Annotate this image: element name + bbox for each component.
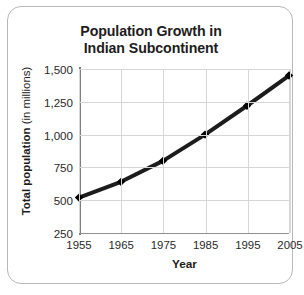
population-line: [79, 76, 289, 198]
gridline-horizontal: [79, 167, 289, 168]
y-axis-tick-label: 500: [33, 194, 73, 207]
gridline-vertical: [79, 69, 80, 233]
gridline-horizontal: [79, 233, 289, 234]
y-axis-tick-label: 1,250: [33, 95, 73, 108]
x-axis-title: Year: [79, 257, 290, 271]
x-axis-tick-label: 2005: [268, 239, 304, 251]
figure-card: Population Growth in Indian Subcontinent…: [7, 6, 293, 284]
gridline-horizontal: [79, 200, 289, 201]
y-axis-tick-label: 1,000: [33, 128, 73, 141]
gridline-horizontal: [79, 102, 289, 103]
gridline-vertical: [248, 69, 249, 233]
gridline-vertical: [121, 69, 122, 233]
y-axis-tick-label: 1,500: [33, 63, 73, 76]
line-series: [79, 69, 289, 233]
gridline-vertical: [206, 69, 207, 233]
gridline-horizontal: [79, 69, 289, 70]
plot-area: [79, 69, 290, 233]
x-axis-tick-labels: 195519651975198519952005: [79, 239, 290, 255]
x-axis-tick-label: 1965: [99, 239, 143, 251]
x-axis-tick-label: 1975: [141, 239, 185, 251]
gridline-horizontal: [79, 135, 289, 136]
x-axis-tick-label: 1955: [57, 239, 101, 251]
y-axis-tick-label: 750: [33, 161, 73, 174]
gridline-vertical: [163, 69, 164, 233]
y-axis-tick-label: 250: [33, 227, 73, 240]
x-axis-tick-label: 1985: [184, 239, 228, 251]
x-axis-tick-label: 1995: [226, 239, 270, 251]
gridline-vertical: [290, 69, 291, 233]
